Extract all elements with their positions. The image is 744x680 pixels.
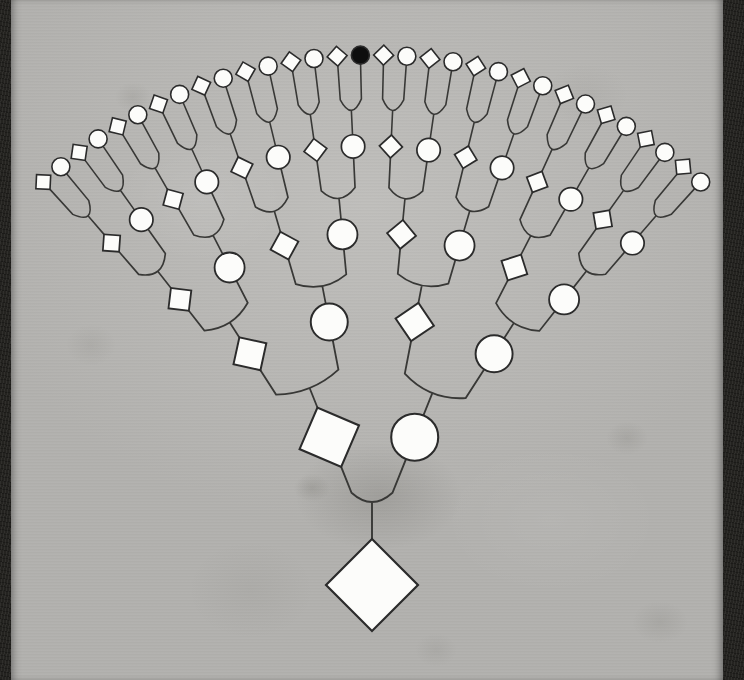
fork-g4-13 (577, 124, 622, 190)
fork-g4-0 (50, 174, 104, 235)
ancestor-node-g5-0-diamond (36, 175, 51, 190)
ancestor-node-g5-27-circle (617, 117, 635, 135)
fork-g2-1 (289, 249, 347, 304)
ancestor-node-g2-1-circle (311, 304, 348, 341)
ancestor-node-g5-29-circle (656, 143, 674, 161)
ancestor-node-g5-16-diamond (374, 45, 394, 65)
ancestor-node-g3-5-circle (445, 231, 475, 261)
ancestor-node-g4-9-circle (417, 138, 440, 161)
fork-g3-1 (179, 193, 224, 255)
ancestor-node-g4-12-diamond (527, 171, 548, 192)
ancestor-node-g5-9-circle (214, 69, 232, 87)
fork-g1-1 (405, 341, 484, 415)
ancestor-node-g4-5-circle (267, 146, 290, 169)
ancestor-node-g5-11-circle (259, 57, 277, 75)
fork-g3-7 (573, 229, 624, 288)
fork-g4-1 (85, 146, 134, 210)
fork-g4-11 (506, 88, 540, 157)
fork-g0-0 (341, 459, 406, 539)
ancestor-node-g4-6-diamond (304, 139, 327, 162)
fork-g4-2 (123, 123, 168, 190)
ancestor-node-g1-1-circle (391, 414, 438, 461)
fork-connectors (50, 64, 695, 539)
ancestor-node-g0-0-diamond (326, 539, 418, 631)
fork-g4-7 (338, 64, 362, 135)
ancestor-node-g2-0-diamond (233, 337, 266, 370)
fork-g4-6 (293, 67, 320, 138)
ancestor-node-g5-10-diamond (236, 62, 255, 81)
ancestor-node-g5-14-diamond (327, 46, 347, 66)
ancestor-node-g5-28-diamond (638, 131, 655, 148)
fork-g2-3 (496, 280, 555, 338)
fork-g3-6 (520, 192, 565, 254)
ancestor-node-g5-26-diamond (597, 106, 615, 124)
fork-g4-5 (248, 75, 277, 146)
pedigree-fan-diagram (0, 0, 744, 680)
ancestor-node-g5-23-circle (534, 77, 552, 95)
ancestor-node-g5-12-diamond (281, 52, 301, 72)
ancestor-node-g5-5-circle (129, 106, 147, 124)
ancestor-node-g3-7-circle (549, 284, 579, 314)
ancestor-node-g4-13-circle (559, 188, 582, 211)
ancestor-nodes (36, 45, 710, 631)
ancestor-node-g5-15-circle-filled (351, 46, 369, 64)
ancestor-node-g3-2-diamond (271, 232, 299, 260)
ancestor-node-g5-6-diamond (150, 95, 168, 113)
ancestor-node-g2-2-diamond (396, 303, 434, 341)
ancestor-node-g5-22-diamond (511, 69, 530, 88)
ancestor-node-g5-8-diamond (192, 76, 211, 95)
ancestor-node-g5-21-circle (489, 63, 507, 81)
fork-g4-12 (542, 104, 582, 172)
fork-g4-4 (205, 87, 238, 157)
ancestor-node-g4-11-circle (490, 156, 513, 179)
ancestor-node-g4-14-diamond (593, 210, 612, 229)
scanned-page (0, 0, 744, 680)
ancestor-node-g4-10-diamond (455, 146, 477, 168)
ancestor-node-g4-2-diamond (163, 189, 183, 209)
ancestor-node-g5-19-circle (444, 53, 462, 71)
ancestor-node-g5-25-circle (577, 95, 595, 113)
fork-g1-0 (260, 340, 338, 407)
fork-g3-2 (246, 169, 288, 232)
ancestor-node-g3-4-diamond (387, 220, 416, 249)
ancestor-node-g3-3-circle (327, 219, 357, 249)
fork-g4-14 (609, 147, 659, 210)
ancestor-node-g3-0-diamond (168, 288, 191, 311)
fork-g4-8 (383, 65, 407, 135)
ancestor-node-g4-7-circle (341, 135, 364, 158)
fork-g3-3 (317, 158, 355, 219)
fork-g4-9 (425, 68, 452, 138)
fork-g2-2 (398, 249, 456, 303)
ancestor-node-g5-13-circle (305, 49, 323, 67)
ancestor-node-g4-8-diamond (379, 135, 402, 158)
ancestor-node-g5-24-diamond (555, 85, 573, 103)
ancestor-node-g5-3-circle (89, 130, 107, 148)
ancestor-node-g5-31-circle (692, 173, 710, 191)
ancestor-node-g5-30-diamond (675, 159, 690, 174)
ancestor-node-g5-18-diamond (420, 49, 440, 69)
ancestor-node-g5-7-circle (171, 85, 189, 103)
ancestor-node-g4-3-circle (195, 170, 218, 193)
ancestor-node-g1-0-diamond (300, 408, 359, 467)
fork-g2-0 (189, 281, 248, 338)
fork-g3-0 (119, 229, 171, 288)
ancestor-node-g5-20-diamond (466, 56, 486, 76)
ancestor-node-g4-0-diamond (103, 234, 120, 251)
ancestor-node-g3-1-circle (215, 253, 245, 283)
fork-g4-10 (467, 76, 497, 146)
ancestor-node-g5-17-circle (398, 47, 416, 65)
fork-g3-5 (456, 168, 498, 231)
ancestor-node-g4-4-diamond (231, 157, 253, 179)
ancestor-node-g5-4-diamond (109, 118, 126, 135)
ancestor-node-g4-15-circle (621, 231, 644, 254)
ancestor-node-g3-6-diamond (502, 255, 528, 281)
fork-g4-15 (640, 174, 695, 234)
ancestor-node-g5-1-circle (52, 158, 70, 176)
fork-g3-4 (389, 158, 427, 220)
ancestor-node-g5-2-diamond (71, 144, 87, 160)
ancestor-node-g2-3-circle (476, 335, 513, 372)
ancestor-node-g4-1-circle (130, 208, 153, 231)
fork-g4-3 (163, 103, 202, 172)
